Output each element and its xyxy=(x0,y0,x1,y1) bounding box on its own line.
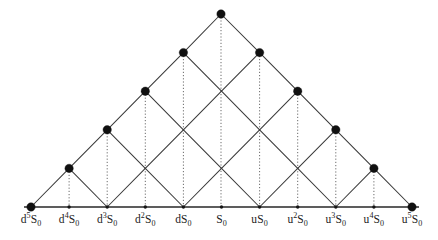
axis-label-u3s0: u3S0 xyxy=(325,214,346,226)
axis-label-subscript: 0 xyxy=(342,219,346,228)
axis-label-subscript: 0 xyxy=(113,219,117,228)
axis-label-d5s0: d5S0 xyxy=(21,214,42,226)
axis-label-u5s0: u5S0 xyxy=(402,214,423,226)
axis-label-s0: S0 xyxy=(216,214,227,226)
axis-label-subscript: 0 xyxy=(151,219,155,228)
axis-label-subscript: 0 xyxy=(75,219,79,228)
axis-label-d3s0: d3S0 xyxy=(97,214,118,226)
axis-label-subscript: 0 xyxy=(188,219,192,228)
axis-label-d2s0: d2S0 xyxy=(135,214,156,226)
axis-label-u4s0: u4S0 xyxy=(364,214,385,226)
axis-label-subscript: 0 xyxy=(380,219,384,228)
binomial-lattice-figure: d5S0d4S0d3S0d2S0dS0S0uS0u2S0u3S0u4S0u5S0 xyxy=(0,0,438,240)
axis-label-us0: uS0 xyxy=(251,214,267,226)
axis-label-subscript: 0 xyxy=(37,219,41,228)
axis-label-subscript: 0 xyxy=(418,219,422,228)
axis-label-u2s0: u2S0 xyxy=(287,214,308,226)
axis-label-subscript: 0 xyxy=(264,219,268,228)
axis-label-subscript: 0 xyxy=(223,219,227,228)
axis-label-d4s0: d4S0 xyxy=(59,214,80,226)
axis-label-subscript: 0 xyxy=(304,219,308,228)
axis-label-ds0: dS0 xyxy=(175,214,191,226)
axis-labels-layer: d5S0d4S0d3S0d2S0dS0S0uS0u2S0u3S0u4S0u5S0 xyxy=(0,0,438,240)
